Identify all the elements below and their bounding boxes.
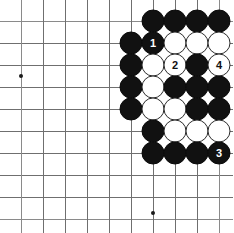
grid-line-vertical (21, 0, 22, 233)
grid-line-horizontal (0, 219, 233, 220)
stone-move-number: 1 (150, 37, 156, 48)
grid-line-horizontal (0, 175, 233, 176)
stone-white-c8-r6[interactable] (186, 120, 209, 143)
stone-white-c6-r3[interactable] (142, 54, 165, 77)
stone-white-c9-r6[interactable] (208, 120, 231, 143)
stone-black-c5-r3[interactable] (120, 54, 143, 77)
stone-black-move-3[interactable]: 3 (208, 142, 231, 165)
stone-black-c9-r5[interactable] (208, 98, 231, 121)
stone-white-c6-r4[interactable] (142, 76, 165, 99)
stone-black-c7-r1[interactable] (164, 10, 187, 33)
stone-black-c7-r4[interactable] (164, 76, 187, 99)
stone-black-c6-r6[interactable] (142, 120, 165, 143)
stone-black-c8-r5[interactable] (186, 98, 209, 121)
stone-black-c5-r5[interactable] (120, 98, 143, 121)
stone-black-c5-r2[interactable] (120, 32, 143, 55)
stone-white-c7-r6[interactable] (164, 120, 187, 143)
stone-white-c7-r2[interactable] (164, 32, 187, 55)
grid-line-horizontal (0, 197, 233, 198)
stone-move-number: 3 (216, 147, 222, 158)
stone-white-move-2[interactable]: 2 (164, 54, 187, 77)
stone-black-move-1[interactable]: 1 (142, 32, 165, 55)
stone-black-c9-r1[interactable] (208, 10, 231, 33)
stone-move-number: 2 (172, 59, 178, 70)
stone-white-c7-r5[interactable] (164, 98, 187, 121)
stone-white-move-4[interactable]: 4 (208, 54, 231, 77)
stone-white-c9-r2[interactable] (208, 32, 231, 55)
stone-black-c9-r4[interactable] (208, 76, 231, 99)
stone-black-c6-r1[interactable] (142, 10, 165, 33)
stone-white-c6-r5[interactable] (142, 98, 165, 121)
grid-line-vertical (109, 0, 110, 233)
grid-line-vertical (65, 0, 66, 233)
stone-move-number: 4 (216, 59, 222, 70)
stone-black-c8-r3[interactable] (186, 54, 209, 77)
stone-black-c7-r7[interactable] (164, 142, 187, 165)
stone-black-c8-r1[interactable] (186, 10, 209, 33)
grid-line-vertical (87, 0, 88, 233)
stone-black-c8-r4[interactable] (186, 76, 209, 99)
grid-line-vertical (43, 0, 44, 233)
star-point-left (19, 74, 23, 78)
stone-black-c5-r4[interactable] (120, 76, 143, 99)
go-board-diagram: 1243 (0, 0, 234, 233)
star-point-bottom (151, 211, 155, 215)
stone-black-c6-r7[interactable] (142, 142, 165, 165)
stone-white-c8-r2[interactable] (186, 32, 209, 55)
stone-black-c8-r7[interactable] (186, 142, 209, 165)
